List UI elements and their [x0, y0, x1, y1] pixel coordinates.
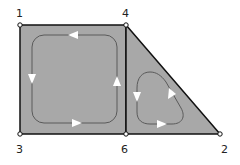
diagram-canvas: 1 4 3 6 2	[0, 0, 240, 165]
node-label-2: 2	[221, 143, 228, 156]
node-label-3: 3	[16, 143, 23, 156]
node-3	[18, 132, 22, 136]
node-4	[124, 23, 128, 27]
node-label-6: 6	[121, 143, 128, 156]
node-label-1: 1	[16, 7, 23, 20]
node-1	[18, 23, 22, 27]
region-rectangle	[20, 25, 126, 134]
node-label-4: 4	[122, 7, 129, 20]
region-triangle	[126, 25, 220, 134]
node-6	[124, 132, 128, 136]
node-2	[218, 132, 222, 136]
